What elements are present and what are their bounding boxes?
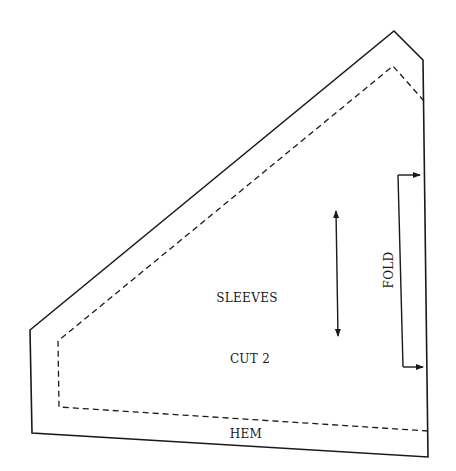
grainline-arrow-icon [336,211,338,336]
cutting-outline [30,31,428,457]
piece-name-label: SLEEVES [216,291,277,305]
pattern-diagram: SLEEVES CUT 2 FOLD HEM [0,0,456,471]
hem-label: HEM [230,427,262,441]
fold-label: FOLD [382,252,396,289]
cut-instruction-label: CUT 2 [230,352,270,366]
fold-bracket [398,175,423,367]
seam-line [58,66,428,431]
